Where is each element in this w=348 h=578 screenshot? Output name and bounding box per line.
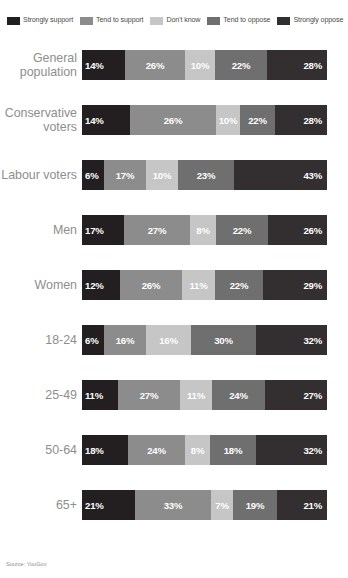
bar-segment-value: 32% xyxy=(303,335,322,346)
row-category-label: 50-64 xyxy=(0,443,82,457)
bar-segment[interactable]: 26% xyxy=(125,50,185,80)
row-category-label: Conservativevoters xyxy=(0,106,82,134)
stacked-bar: 17%27%8%22%26% xyxy=(82,215,327,245)
bar-segment[interactable]: 32% xyxy=(256,435,327,465)
bar-segment[interactable]: 29% xyxy=(263,270,327,300)
bar-segment-value: 7% xyxy=(215,500,228,511)
chart-row: 50-6418%24%8%18%32% xyxy=(0,421,335,476)
bar-segment-value: 30% xyxy=(214,335,233,346)
stacked-bar: 14%26%10%22%28% xyxy=(82,105,327,135)
bar-segment-value: 27% xyxy=(148,225,167,236)
bar-segment[interactable]: 11% xyxy=(182,270,215,300)
bar-segment[interactable]: 27% xyxy=(124,215,190,245)
stacked-bar: 6%16%16%30%32% xyxy=(82,325,327,355)
bar-segment-value: 16% xyxy=(159,335,178,346)
bar-segment[interactable]: 10% xyxy=(185,50,215,80)
bar-segment-value: 26% xyxy=(303,225,322,236)
bar-segment[interactable]: 6% xyxy=(82,160,104,190)
legend-item[interactable]: Don't know xyxy=(150,17,200,25)
bar-segment[interactable]: 27% xyxy=(265,380,327,410)
bar-segment-value: 26% xyxy=(142,280,161,291)
bar-segment[interactable]: 22% xyxy=(240,105,275,135)
bar-segment-value: 6% xyxy=(85,170,98,181)
bar-segment[interactable]: 26% xyxy=(130,105,216,135)
stacked-bar: 11%27%11%24%27% xyxy=(82,380,327,410)
bar-segment[interactable]: 10% xyxy=(216,105,240,135)
bar-segment[interactable]: 16% xyxy=(104,325,146,355)
row-category-label: Women xyxy=(0,278,82,292)
legend-item-label: Tend to oppose xyxy=(223,17,270,24)
bar-segment[interactable]: 21% xyxy=(82,490,135,520)
bar-segment-value: 27% xyxy=(303,390,322,401)
bar-segment[interactable]: 19% xyxy=(233,490,277,520)
bar-segment[interactable]: 28% xyxy=(275,105,327,135)
bar-segment-value: 33% xyxy=(164,500,183,511)
legend-item-label: Don't know xyxy=(166,17,200,24)
stacked-bar: 12%26%11%22%29% xyxy=(82,270,327,300)
row-category-label-line: 18-24 xyxy=(0,333,77,347)
bar-segment[interactable]: 10% xyxy=(146,160,178,190)
legend-item[interactable]: Tend to support xyxy=(80,17,143,25)
bar-segment-value: 24% xyxy=(147,445,166,456)
bar-segment[interactable]: 33% xyxy=(135,490,211,520)
bar-segment[interactable]: 14% xyxy=(82,105,130,135)
legend-swatch-icon xyxy=(150,17,163,25)
row-category-label-line: 65+ xyxy=(0,498,77,512)
bar-segment[interactable]: 22% xyxy=(215,50,267,80)
bar-segment[interactable]: 11% xyxy=(180,380,212,410)
bar-segment[interactable]: 12% xyxy=(82,270,120,300)
bar-segment-value: 14% xyxy=(85,115,104,126)
row-category-label-line: General xyxy=(0,51,77,65)
bar-segment-value: 22% xyxy=(248,115,267,126)
bar-segment[interactable]: 8% xyxy=(185,435,210,465)
bar-segment[interactable]: 28% xyxy=(267,50,327,80)
bar-segment[interactable]: 18% xyxy=(82,435,128,465)
bar-segment-value: 14% xyxy=(85,60,104,71)
chart-row: Conservativevoters14%26%10%22%28% xyxy=(0,91,335,146)
bar-segment[interactable]: 30% xyxy=(191,325,256,355)
bar-segment-value: 22% xyxy=(233,225,252,236)
bar-segment[interactable]: 27% xyxy=(118,380,180,410)
row-category-label: 65+ xyxy=(0,498,82,512)
bar-segment[interactable]: 22% xyxy=(215,270,263,300)
bar-segment[interactable]: 26% xyxy=(120,270,182,300)
bar-segment-value: 18% xyxy=(224,445,243,456)
bar-segment[interactable]: 32% xyxy=(256,325,327,355)
legend-item[interactable]: Strongly oppose xyxy=(277,17,343,25)
bar-segment[interactable]: 6% xyxy=(82,325,104,355)
chart-rows: Generalpopulation14%26%10%22%28%Conserva… xyxy=(0,36,335,531)
bar-segment[interactable]: 22% xyxy=(216,215,268,245)
bar-segment[interactable]: 17% xyxy=(104,160,146,190)
bar-segment[interactable]: 18% xyxy=(210,435,256,465)
bar-segment[interactable]: 8% xyxy=(190,215,216,245)
bar-segment[interactable]: 24% xyxy=(128,435,185,465)
chart-row: 25-4911%27%11%24%27% xyxy=(0,366,335,421)
chart-row: Generalpopulation14%26%10%22%28% xyxy=(0,36,335,91)
bar-segment-value: 19% xyxy=(246,500,265,511)
bar-segment[interactable]: 7% xyxy=(211,490,233,520)
bar-segment-value: 21% xyxy=(85,500,104,511)
bar-segment[interactable]: 11% xyxy=(82,380,118,410)
bar-segment[interactable]: 17% xyxy=(82,215,124,245)
legend-item[interactable]: Tend to oppose xyxy=(207,17,270,25)
bar-segment[interactable]: 16% xyxy=(146,325,191,355)
bar-segment-value: 12% xyxy=(85,280,104,291)
bar-segment[interactable]: 24% xyxy=(212,380,265,410)
bar-segment-value: 17% xyxy=(85,225,104,236)
row-category-label-line: Conservative xyxy=(0,106,77,120)
bar-segment-value: 27% xyxy=(140,390,159,401)
bar-segment[interactable]: 26% xyxy=(268,215,327,245)
bar-segment-value: 10% xyxy=(191,60,210,71)
bar-segment-value: 28% xyxy=(303,115,322,126)
bar-segment[interactable]: 43% xyxy=(234,160,327,190)
legend-item[interactable]: Strongly support xyxy=(7,17,73,25)
bar-segment[interactable]: 21% xyxy=(277,490,327,520)
bar-segment[interactable]: 23% xyxy=(178,160,234,190)
legend-item-label: Strongly support xyxy=(23,17,73,24)
row-category-label-line: 50-64 xyxy=(0,443,77,457)
bar-segment-value: 43% xyxy=(303,170,322,181)
bar-segment-value: 10% xyxy=(219,115,238,126)
row-category-label-line: 25-49 xyxy=(0,388,77,402)
row-category-label-line: Men xyxy=(0,223,77,237)
bar-segment[interactable]: 14% xyxy=(82,50,125,80)
